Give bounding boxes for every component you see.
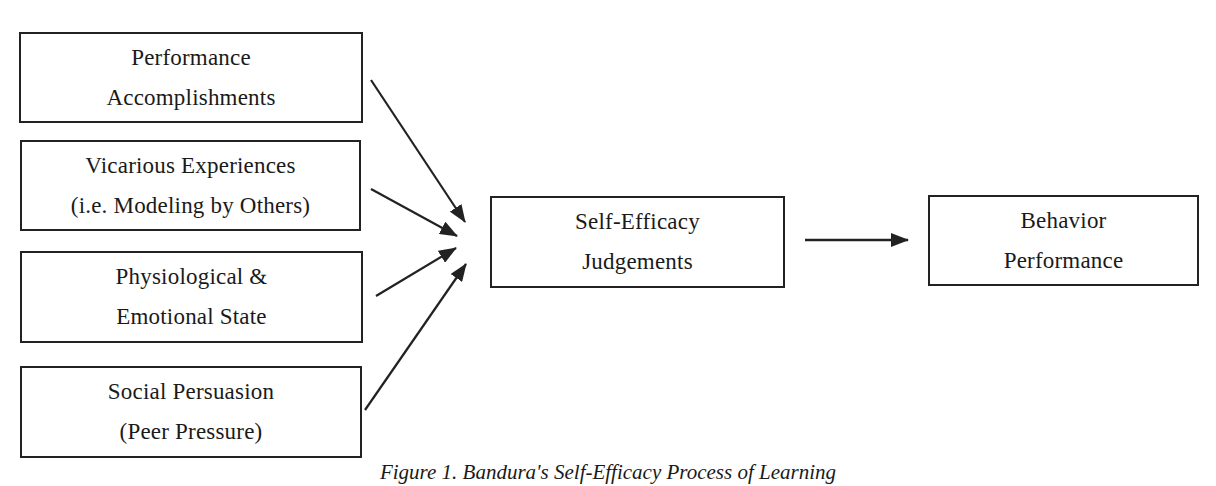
arrow-social-to-self-efficacy [365,264,466,410]
box-label-line: Performance [1004,241,1124,281]
box-label-line: Physiological & [116,257,268,297]
box-label-line: (Peer Pressure) [120,412,263,452]
box-label-line: Social Persuasion [108,372,274,412]
box-label-line: Accomplishments [106,78,275,118]
box-label-line: (i.e. Modeling by Others) [71,186,310,226]
box-vicarious-experiences: Vicarious Experiences (i.e. Modeling by … [20,140,361,231]
box-label-line: Vicarious Experiences [85,146,295,186]
box-label-line: Self-Efficacy [575,202,700,242]
box-label-line: Behavior [1021,201,1107,241]
box-performance-accomplishments: Performance Accomplishments [19,32,363,123]
box-label-line: Performance [131,38,251,78]
box-behavior-performance: Behavior Performance [928,195,1199,286]
arrow-performance-to-self-efficacy [371,80,465,222]
box-self-efficacy-judgements: Self-Efficacy Judgements [490,196,785,288]
arrow-vicarious-to-self-efficacy [371,189,457,236]
figure-caption: Figure 1. Bandura's Self-Efficacy Proces… [0,458,1216,486]
box-social-persuasion: Social Persuasion (Peer Pressure) [20,366,362,458]
box-label-line: Emotional State [116,297,267,337]
box-label-line: Judgements [582,242,693,282]
box-physiological-emotional-state: Physiological & Emotional State [20,251,363,343]
arrow-physiological-to-self-efficacy [376,248,456,296]
